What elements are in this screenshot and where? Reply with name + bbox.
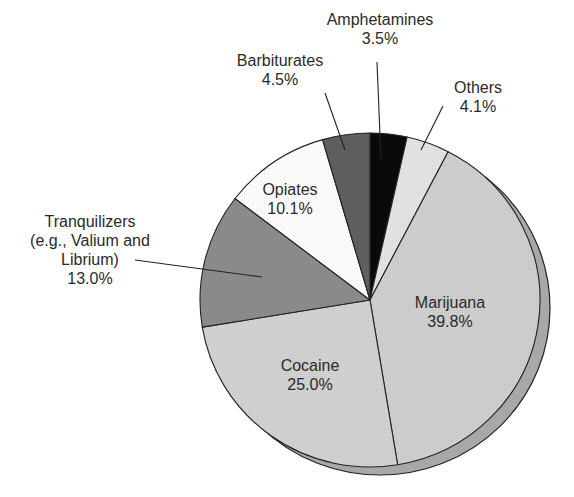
label-opiates-pct: 10.1% <box>245 199 335 218</box>
label-cocaine: Cocaine 25.0% <box>260 356 360 394</box>
label-barbiturates-pct: 4.5% <box>220 70 340 89</box>
label-cocaine-name: Cocaine <box>260 356 360 375</box>
label-tranquilizers-pct: 13.0% <box>10 269 170 288</box>
label-tranquilizers: Tranquilizers (e.g., Valium and Librium)… <box>10 212 170 288</box>
label-amphetamines-name: Amphetamines <box>316 10 444 29</box>
label-amphetamines-pct: 3.5% <box>316 29 444 48</box>
label-barbiturates-name: Barbiturates <box>220 51 340 70</box>
label-tranquilizers-line2: (e.g., Valium and <box>10 231 170 250</box>
label-barbiturates: Barbiturates 4.5% <box>220 51 340 89</box>
label-amphetamines: Amphetamines 3.5% <box>316 10 444 48</box>
label-others-pct: 4.1% <box>438 97 518 116</box>
label-marijuana-name: Marijuana <box>400 293 500 312</box>
label-opiates-name: Opiates <box>245 180 335 199</box>
label-tranquilizers-line1: Tranquilizers <box>10 212 170 231</box>
label-tranquilizers-line3: Librium) <box>10 250 170 269</box>
label-marijuana-pct: 39.8% <box>400 312 500 331</box>
label-opiates: Opiates 10.1% <box>245 180 335 218</box>
label-marijuana: Marijuana 39.8% <box>400 293 500 331</box>
label-others: Others 4.1% <box>438 78 518 116</box>
label-cocaine-pct: 25.0% <box>260 375 360 394</box>
label-others-name: Others <box>438 78 518 97</box>
